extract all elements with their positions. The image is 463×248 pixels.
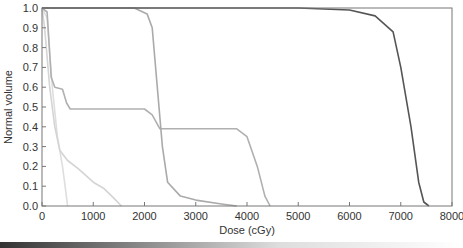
x-tick-label: 0 <box>39 210 45 222</box>
x-tick-label: 6000 <box>337 210 361 222</box>
x-tick-label: 3000 <box>184 210 208 222</box>
y-tick-label: 0.2 <box>23 160 38 172</box>
y-axis-label: Normal volume <box>2 70 14 144</box>
series-line <box>42 8 237 206</box>
y-tick-label: 0.6 <box>23 81 38 93</box>
x-tick-label: 8000 <box>440 210 463 222</box>
bottom-edge-bar <box>0 242 463 248</box>
x-axis: 010002000300040005000600070008000 <box>39 202 463 222</box>
series-layer <box>42 8 429 206</box>
y-tick-label: 0.3 <box>23 141 38 153</box>
y-tick-label: 0.9 <box>23 22 38 34</box>
y-tick-label: 0.8 <box>23 42 38 54</box>
y-tick-label: 0.7 <box>23 61 38 73</box>
y-tick-label: 0.1 <box>23 180 38 192</box>
x-tick-label: 1000 <box>81 210 105 222</box>
series-line <box>42 8 270 206</box>
x-tick-label: 4000 <box>235 210 259 222</box>
plot-frame <box>42 8 452 206</box>
y-tick-label: 0.5 <box>23 101 38 113</box>
y-axis: 0.00.10.20.30.40.50.60.70.80.91.0 <box>23 2 46 212</box>
x-tick-label: 2000 <box>132 210 156 222</box>
y-tick-label: 0.4 <box>23 121 38 133</box>
y-tick-label: 1.0 <box>23 2 38 14</box>
series-line <box>42 8 429 206</box>
y-tick-label: 0.0 <box>23 200 38 212</box>
x-axis-label: Dose (cGy) <box>219 224 275 236</box>
dvh-chart: 010002000300040005000600070008000 0.00.1… <box>0 0 463 248</box>
x-tick-label: 7000 <box>389 210 413 222</box>
x-tick-label: 5000 <box>286 210 310 222</box>
